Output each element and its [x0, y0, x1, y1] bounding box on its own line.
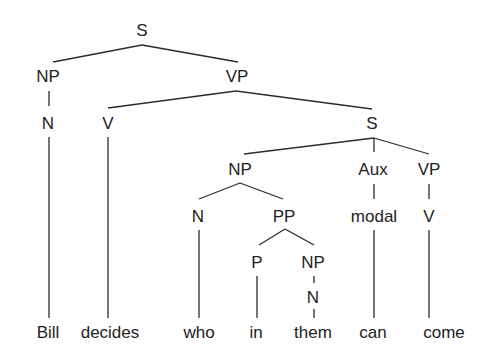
tree-edge	[244, 138, 374, 154]
node-label-pp: PP	[273, 207, 296, 226]
node-label-s1: S	[366, 114, 377, 133]
leaf-word: who	[182, 323, 214, 342]
node-label-v1: V	[102, 114, 114, 133]
node-label-aux: Aux	[358, 160, 388, 179]
tree-edge	[108, 91, 236, 108]
tree-edge	[285, 229, 314, 245]
tree-nodes: SNPVPNVSNPAuxVPNPPmodalVPNPNBilldecidesw…	[36, 21, 465, 342]
node-label-np2: NP	[228, 160, 252, 179]
node-label-vp1: VP	[226, 67, 249, 86]
tree-edge	[142, 45, 238, 62]
leaf-word: in	[249, 323, 262, 342]
tree-edge	[374, 138, 429, 154]
node-label-n2: N	[192, 207, 204, 226]
tree-edge	[240, 183, 283, 199]
node-label-vp2: VP	[418, 160, 441, 179]
node-label-n3: N	[307, 288, 319, 307]
node-label-n1: N	[42, 114, 54, 133]
node-label-np3: NP	[301, 253, 325, 272]
node-label-s0: S	[136, 21, 147, 40]
leaf-word: Bill	[37, 323, 60, 342]
node-label-np1: NP	[36, 67, 60, 86]
tree-edge	[199, 183, 240, 199]
node-label-v2: V	[423, 207, 435, 226]
syntax-tree: SNPVPNVSNPAuxVPNPPmodalVPNPNBilldecidesw…	[0, 0, 494, 359]
tree-edge	[53, 45, 142, 62]
node-label-p: P	[251, 253, 262, 272]
leaf-word: decides	[81, 323, 140, 342]
tree-edge	[236, 91, 372, 109]
tree-edge	[259, 229, 285, 245]
leaf-word: can	[359, 323, 386, 342]
leaf-word: them	[294, 323, 332, 342]
leaf-word: come	[423, 323, 465, 342]
node-label-modal: modal	[351, 207, 397, 226]
